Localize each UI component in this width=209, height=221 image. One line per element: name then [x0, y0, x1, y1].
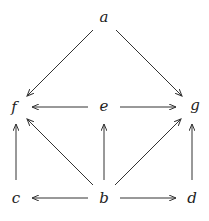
node-b: b [99, 189, 109, 207]
edge-a-g [116, 30, 182, 96]
node-g: g [190, 96, 200, 114]
node-e: e [100, 97, 109, 115]
edge-b-f [27, 119, 93, 185]
node-f: f [10, 98, 19, 116]
node-d: d [187, 189, 197, 207]
graph-diagram: a f e g c b d [0, 0, 209, 221]
edge-b-g [115, 119, 181, 185]
node-a: a [100, 8, 109, 26]
edge-a-f [27, 30, 93, 96]
node-c: c [12, 189, 21, 207]
